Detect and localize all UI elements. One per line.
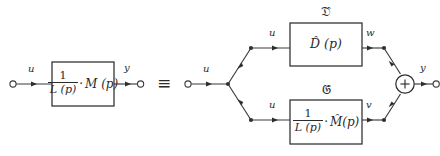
bottom-branch-caption: 𝔊̂ bbox=[290, 83, 362, 96]
left-output-label: y bbox=[124, 63, 130, 73]
left-output-terminal bbox=[138, 81, 144, 87]
bottom-block-denominator: L (p) bbox=[293, 122, 323, 135]
left-input-arrowhead bbox=[31, 81, 37, 86]
top-branch-input-label: u bbox=[269, 28, 275, 38]
top-branch-caption: 𝔇̂ bbox=[290, 5, 362, 18]
figure-canvas: u 1 L (p) · M (p) y ≡ u u 𝔇̂ D̂ (p) w u … bbox=[0, 0, 440, 156]
left-output-arrowhead bbox=[125, 81, 131, 86]
left-block-operator: · bbox=[78, 78, 83, 90]
left-block-expression: 1 L (p) · M (p) bbox=[52, 62, 114, 106]
top-merge-diagonal bbox=[384, 48, 401, 74]
right-output-label: y bbox=[420, 63, 426, 73]
bottom-block-factor: M̂(p) bbox=[328, 116, 359, 128]
right-input-label: u bbox=[203, 64, 209, 74]
right-output-terminal bbox=[433, 81, 439, 87]
bottom-block-numerator: 1 bbox=[293, 108, 323, 120]
bottom-merge-diagonal bbox=[384, 94, 401, 120]
left-block-fraction: 1 L (p) bbox=[48, 70, 78, 96]
equivalence-symbol: ≡ bbox=[157, 75, 171, 92]
bottom-branch-output-label: v bbox=[366, 100, 372, 110]
bottom-block-fraction: 1 L (p) bbox=[293, 108, 323, 134]
bottom-block-output-arrowhead bbox=[367, 117, 373, 122]
lower-branch-input-arrowhead bbox=[272, 117, 278, 122]
left-input-label: u bbox=[28, 64, 34, 74]
top-branch-output-label: w bbox=[366, 28, 375, 38]
top-block-expression: D̂ (p) bbox=[290, 23, 362, 66]
top-block-output-arrowhead bbox=[367, 45, 373, 50]
top-block-text: D̂ (p) bbox=[310, 38, 342, 51]
bottom-block-expression: 1 L (p) · M̂(p) bbox=[290, 100, 362, 144]
left-block-denominator: L (p) bbox=[48, 84, 78, 97]
left-block-numerator: 1 bbox=[48, 70, 78, 82]
bottom-branch-input-label: u bbox=[269, 100, 275, 110]
right-input-terminal bbox=[185, 81, 191, 87]
upper-branch-input-arrowhead bbox=[272, 45, 278, 50]
left-input-terminal bbox=[10, 81, 16, 87]
bottom-block-operator: · bbox=[323, 116, 328, 128]
right-output-arrowhead bbox=[421, 81, 427, 86]
left-block-factor: M (p) bbox=[84, 78, 119, 90]
right-input-arrowhead bbox=[206, 81, 212, 86]
